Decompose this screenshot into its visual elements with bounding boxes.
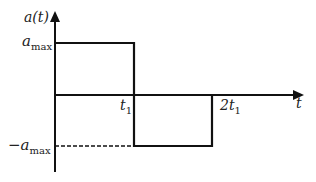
2t1-label: 2t1 [219,97,241,116]
y-axis-label: a(t) [24,9,49,25]
y-axis-arrow-icon [50,11,60,22]
neg-amax-label: −amax [8,136,51,156]
acceleration-diagram: a(t) amax −amax t1 2t1 t [0,0,316,182]
t1-label: t1 [120,97,132,116]
x-axis-label: t [296,95,302,111]
amax-label: amax [22,32,52,52]
